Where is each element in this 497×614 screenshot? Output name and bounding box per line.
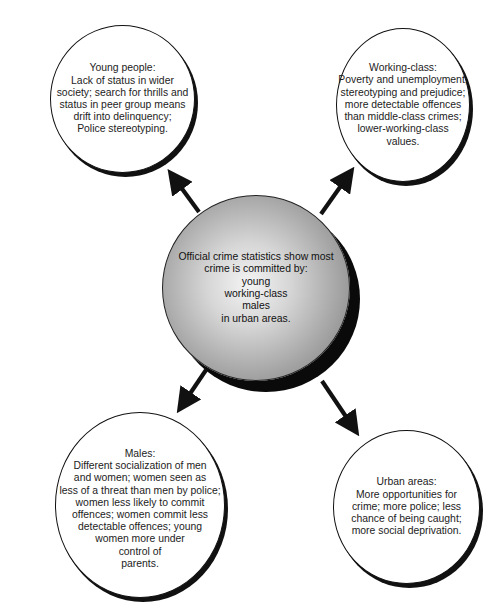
- arrow-to-working-class: [321, 173, 350, 214]
- node-working-class-text: Working-class: Poverty and unemployment;…: [338, 62, 467, 147]
- crime-statistics-diagram: Young people: Lack of status in wider so…: [0, 0, 497, 614]
- node-central-text: Official crime statistics show most crim…: [178, 251, 333, 325]
- node-males: Males: Different socialization of men an…: [55, 412, 225, 598]
- node-central-statistics: Official crime statistics show most crim…: [162, 195, 350, 381]
- arrow-to-urban-areas: [322, 381, 355, 430]
- node-males-text: Males: Different socialization of men an…: [59, 448, 220, 570]
- arrow-to-young-people: [172, 175, 199, 212]
- node-urban-areas: Urban areas: More opportunities for crim…: [333, 430, 480, 584]
- node-urban-areas-text: Urban areas: More opportunities for crim…: [351, 476, 461, 537]
- node-working-class: Working-class: Poverty and unemployment;…: [336, 28, 470, 182]
- node-young-people: Young people: Lack of status in wider so…: [50, 25, 195, 173]
- node-young-people-text: Young people: Lack of status in wider so…: [57, 62, 189, 135]
- arrow-to-males: [181, 370, 206, 407]
